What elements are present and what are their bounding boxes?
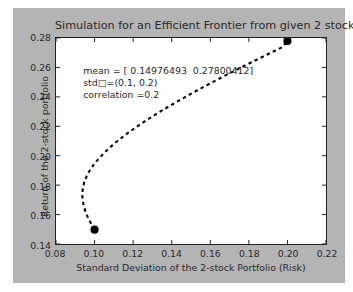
chart-title: Simulation for an Efficient Frontier fro… — [55, 19, 327, 33]
figure-canvas: Simulation for an Efficient Frontier fro… — [0, 0, 353, 292]
x-tick-label: 0.22 — [317, 248, 338, 259]
x-tick-label: 0.10 — [83, 248, 104, 259]
x-axis-label: Standard Deviation of the 2-stock Portfo… — [55, 262, 327, 273]
y-axis-label: Return of the 2-stock portfolio — [39, 43, 50, 251]
x-tick-label: 0.16 — [200, 248, 221, 259]
x-tick-label: 0.14 — [161, 248, 182, 259]
annotation-mean: mean = [ 0.14976493 0.27800412] — [83, 65, 253, 76]
y-tick-label: 0.28 — [18, 32, 51, 43]
x-tick-label: 0.12 — [122, 248, 143, 259]
marker-stock-1 — [91, 226, 99, 234]
annotation-std: std□=(0.1, 0.2) — [83, 77, 157, 88]
x-tick-label: 0.20 — [278, 248, 299, 259]
x-tick-label: 0.18 — [239, 248, 260, 259]
annotation-correlation: correlation =0.2 — [83, 89, 159, 100]
